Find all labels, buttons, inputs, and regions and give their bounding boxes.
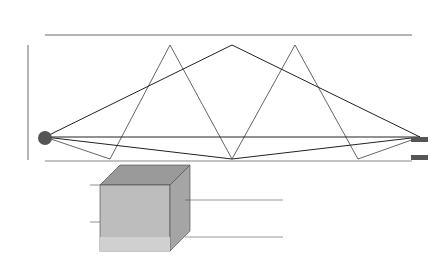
receiver-r1-marker — [411, 137, 428, 142]
receiver-r2-marker — [411, 155, 428, 160]
ray-diagram-canvas — [0, 0, 433, 275]
surface-bottom-reflected-ray — [45, 45, 420, 159]
surface-reflected-ray — [45, 45, 420, 137]
source-marker — [38, 131, 52, 145]
eigenrays — [45, 45, 420, 159]
seabed-inset — [90, 165, 283, 251]
